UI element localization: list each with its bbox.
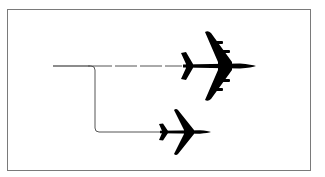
small-aircraft-icon bbox=[159, 109, 211, 155]
large-aircraft-icon bbox=[181, 31, 256, 101]
elbow-path bbox=[88, 66, 160, 132]
flight-diagram bbox=[0, 0, 325, 177]
